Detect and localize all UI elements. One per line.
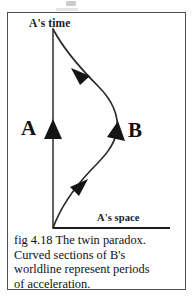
figure-caption: fig 4.18 The twin paradox. Curved sectio…	[14, 233, 180, 291]
worldline-label-b: B	[128, 120, 142, 141]
caption-line-4: of acceleration.	[14, 277, 180, 292]
caption-line-2: Curved sections of B's	[14, 248, 180, 263]
scan-artifact-smudge	[56, 8, 78, 11]
scan-artifact-top	[66, 1, 76, 6]
figure-root: A's time A's space A B fig 4.18 The twin…	[0, 0, 194, 302]
caption-line-3: worldline represent periods	[14, 262, 180, 277]
worldline-label-a: A	[21, 118, 36, 139]
caption-line-1: fig 4.18 The twin paradox.	[14, 233, 180, 248]
axis-label-a-time: A's time	[29, 17, 70, 29]
axis-label-a-space: A's space	[97, 212, 140, 223]
